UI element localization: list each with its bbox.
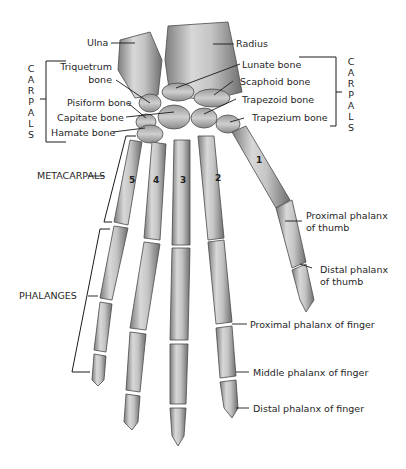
finger-4-phalanges [124,242,160,430]
label-trapezium: Trapezium bone [252,112,328,123]
metacarpal-number-2: 2 [215,173,221,183]
label-trapezoid: Trapezoid bone [242,94,314,105]
carpals-left-letter: R [26,86,36,97]
metacarpal-number-5: 5 [129,175,135,185]
carpals-right-letter: L [346,112,356,123]
metacarpal-bones [114,126,290,245]
carpals-right-letter: R [346,79,356,90]
ulna-bone [118,32,162,98]
label-proximal-phalanx-thumb-line2: of thumb [306,222,349,233]
carpals-right-letter: P [346,90,356,101]
hand-skeleton-diagram: Ulna Radius Triquetrum bone Pisiform bon… [0,0,406,469]
label-distal-phalanx-thumb-line1: Distal phalanx [320,264,388,275]
label-triquetrum-line1: Triquetrum [56,61,112,72]
carpals-left-letter: S [26,130,36,141]
carpals-left-letter: C [26,64,36,75]
finger-5-phalanges [92,226,128,386]
label-phalanges: PHALANGES [19,290,77,301]
label-capitate: Capitate bone [57,112,124,123]
carpals-right-letter: S [346,123,356,134]
metacarpal-number-3: 3 [180,175,186,185]
label-ulna: Ulna [87,37,108,48]
label-triquetrum-line2: bone [56,74,112,85]
finger-3-phalanges [170,248,190,446]
label-radius: Radius [236,38,268,49]
label-distal-phalanx-thumb-line2: of thumb [320,276,363,287]
label-pisiform: Pisiform bone [67,97,132,108]
label-proximal-phalanx-thumb-line1: Proximal phalanx [306,210,388,221]
carpals-right-letter: C [346,57,356,68]
carpals-right-letter: A [346,101,356,112]
carpals-left-letter: A [26,108,36,119]
label-hamate: Hamate bone [51,127,115,138]
carpals-left-letter: L [26,119,36,130]
carpals-right-letter: A [346,68,356,79]
label-lunate: Lunate bone [242,59,301,70]
metacarpal-number-4: 4 [153,175,159,185]
label-proximal-phalanx-finger: Proximal phalanx of finger [250,319,375,330]
label-metacarpals: METACARPALS [37,170,105,181]
metacarpal-number-1: 1 [256,155,262,165]
carpals-left-letter: A [26,75,36,86]
label-scaphoid: Scaphoid bone [240,76,310,87]
label-distal-phalanx-finger: Distal phalanx of finger [253,403,364,414]
carpals-left-letter: P [26,97,36,108]
finger-2-phalanges [208,240,238,418]
label-middle-phalanx-finger: Middle phalanx of finger [253,367,368,378]
